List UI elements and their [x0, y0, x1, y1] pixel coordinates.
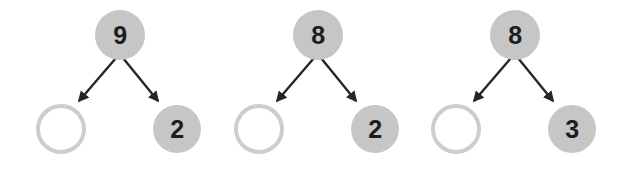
right-part-node: 3: [548, 105, 596, 153]
arrow-to-right-part: [123, 58, 158, 101]
number-bond-3: 8 3: [395, 0, 600, 170]
whole-node: 9: [95, 10, 145, 60]
left-part-answer-blank[interactable]: [36, 104, 86, 154]
right-part-node: 2: [351, 105, 399, 153]
arrow-to-right-part: [321, 58, 356, 101]
whole-node: 8: [490, 10, 540, 60]
number-bond-1: 9 2: [0, 0, 205, 170]
whole-node: 8: [293, 10, 343, 60]
number-bond-worksheet: 9 2 8 2 8 3: [0, 0, 625, 170]
arrow-to-left-part: [79, 58, 116, 101]
arrow-to-left-part: [474, 58, 511, 101]
arrow-to-right-part: [518, 58, 553, 101]
left-part-answer-blank[interactable]: [234, 104, 284, 154]
number-bond-2: 8 2: [198, 0, 403, 170]
left-part-answer-blank[interactable]: [431, 104, 481, 154]
right-part-node: 2: [153, 105, 201, 153]
arrow-to-left-part: [277, 58, 314, 101]
